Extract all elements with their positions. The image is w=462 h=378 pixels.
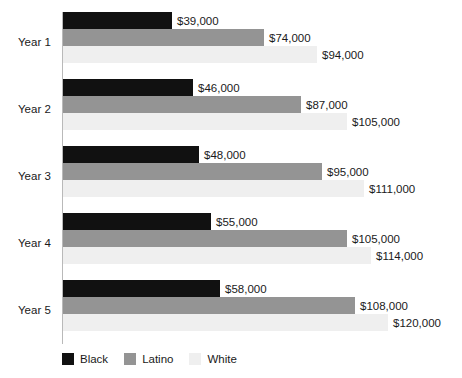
bar-row-latino-year-4: $105,000 (63, 230, 462, 247)
chart-legend: Black Latino White (62, 350, 253, 368)
legend-label-latino: Latino (142, 353, 173, 366)
bar-group-year-3: Year 3 $48,000 $95,000 $111,000 (0, 146, 462, 213)
category-label-year-4: Year 4 (0, 237, 56, 250)
bar-latino-year-4 (63, 230, 347, 247)
bar-black-year-3 (63, 146, 199, 163)
bar-latino-year-3 (63, 163, 322, 180)
category-label-year-3: Year 3 (0, 170, 56, 183)
bar-white-year-5 (63, 314, 388, 331)
legend-item-black: Black (62, 353, 108, 366)
bar-row-latino-year-3: $95,000 (63, 163, 462, 180)
bar-row-white-year-3: $111,000 (63, 180, 462, 197)
bar-value-black-year-3: $48,000 (204, 148, 246, 161)
bar-group-year-4: Year 4 $55,000 $105,000 $114,000 (0, 213, 462, 280)
bar-row-white-year-2: $105,000 (63, 113, 462, 130)
bar-black-year-1 (63, 12, 172, 29)
bar-latino-year-5 (63, 297, 355, 314)
bar-row-white-year-4: $114,000 (63, 247, 462, 264)
bar-latino-year-2 (63, 96, 301, 113)
bar-value-black-year-4: $55,000 (216, 215, 258, 228)
bar-white-year-2 (63, 113, 347, 130)
category-label-year-2: Year 2 (0, 103, 56, 116)
bar-group-year-1: Year 1 $39,000 $74,000 $94,000 (0, 12, 462, 79)
bar-row-black-year-4: $55,000 (63, 213, 462, 230)
bar-row-black-year-3: $48,000 (63, 146, 462, 163)
bar-value-black-year-5: $58,000 (225, 282, 267, 295)
bar-black-year-5 (63, 280, 220, 297)
bar-black-year-4 (63, 213, 211, 230)
legend-label-black: Black (80, 353, 108, 366)
bar-value-white-year-3: $111,000 (369, 182, 415, 195)
bar-chart: Year 1 $39,000 $74,000 $94,000 Year 2 $4… (0, 0, 462, 378)
plot-area: Year 1 $39,000 $74,000 $94,000 Year 2 $4… (0, 0, 462, 348)
legend-swatch-black-icon (62, 353, 74, 365)
bar-row-latino-year-5: $108,000 (63, 297, 462, 314)
bar-value-black-year-1: $39,000 (177, 14, 219, 27)
category-label-year-1: Year 1 (0, 36, 56, 49)
bar-value-latino-year-2: $87,000 (306, 98, 348, 111)
bar-group-year-2: Year 2 $46,000 $87,000 $105,000 (0, 79, 462, 146)
legend-swatch-white-icon (189, 353, 201, 365)
bar-black-year-2 (63, 79, 193, 96)
bar-row-black-year-5: $58,000 (63, 280, 462, 297)
legend-item-latino: Latino (124, 353, 173, 366)
bar-row-white-year-1: $94,000 (63, 46, 462, 63)
bar-latino-year-1 (63, 29, 264, 46)
bar-row-latino-year-1: $74,000 (63, 29, 462, 46)
bar-value-latino-year-5: $108,000 (360, 299, 408, 312)
bar-value-latino-year-4: $105,000 (352, 232, 400, 245)
bar-row-latino-year-2: $87,000 (63, 96, 462, 113)
bar-value-latino-year-1: $74,000 (269, 31, 311, 44)
bar-value-white-year-1: $94,000 (322, 48, 364, 61)
bar-white-year-4 (63, 247, 371, 264)
bar-row-black-year-2: $46,000 (63, 79, 462, 96)
bar-value-white-year-2: $105,000 (352, 115, 400, 128)
bar-value-black-year-2: $46,000 (198, 81, 240, 94)
bar-white-year-1 (63, 46, 317, 63)
bar-value-white-year-4: $114,000 (376, 249, 423, 262)
bar-white-year-3 (63, 180, 364, 197)
bar-value-white-year-5: $120,000 (393, 316, 441, 329)
bar-group-year-5: Year 5 $58,000 $108,000 $120,000 (0, 280, 462, 347)
legend-swatch-latino-icon (124, 353, 136, 365)
category-label-year-5: Year 5 (0, 304, 56, 317)
legend-item-white: White (189, 353, 236, 366)
bar-row-black-year-1: $39,000 (63, 12, 462, 29)
bar-row-white-year-5: $120,000 (63, 314, 462, 331)
legend-label-white: White (207, 353, 236, 366)
bar-value-latino-year-3: $95,000 (327, 165, 369, 178)
